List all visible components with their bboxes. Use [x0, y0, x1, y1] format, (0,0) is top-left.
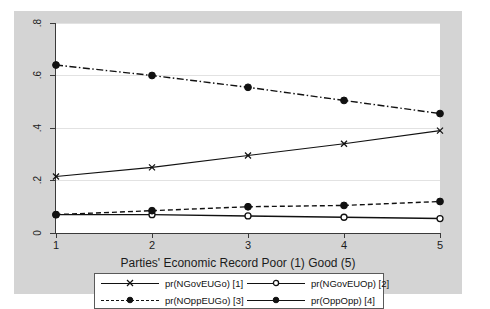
data-point — [341, 202, 348, 209]
data-point — [437, 216, 443, 222]
legend-sample-4 — [245, 294, 307, 308]
data-point — [437, 110, 444, 117]
x-axis-title: Parties' Economic Record Poor (1) Good (… — [14, 256, 462, 270]
data-point — [53, 211, 60, 218]
legend-sample-2 — [245, 277, 307, 291]
circle-filled-icon — [126, 295, 135, 304]
series-line-1 — [56, 131, 440, 177]
legend-row-2: pr(NOppEUGo) [3] pr(OppOpp) [4] — [95, 292, 385, 309]
legend-row-1: pr(NGovEUGo) [1] pr(NGovEUOp) [2] — [95, 275, 385, 292]
cross-icon — [126, 278, 135, 287]
data-point — [149, 72, 156, 79]
legend-entry-2[interactable]: pr(NGovEUOp) [2] — [245, 275, 389, 292]
circle-filled-icon — [272, 295, 281, 304]
chart-figure: .8 .6 .4 .2 0 1 2 3 4 5 Parties' Economi… — [14, 11, 462, 294]
legend-label-2: pr(NGovEUOp) [2] — [307, 278, 389, 289]
legend-sample-3 — [99, 294, 161, 308]
chart-legend: pr(NGovEUGo) [1] pr(NGovEUOp) [2] — [94, 273, 384, 309]
legend-entry-3[interactable]: pr(NOppEUGo) [3] — [99, 292, 244, 309]
data-point — [341, 214, 347, 220]
data-point — [245, 213, 251, 219]
data-point — [53, 62, 60, 69]
legend-label-3: pr(NOppEUGo) [3] — [161, 295, 244, 306]
legend-entry-1[interactable]: pr(NGovEUGo) [1] — [99, 275, 243, 292]
legend-label-1: pr(NGovEUGo) [1] — [161, 278, 243, 289]
circle-open-icon — [272, 278, 281, 287]
data-point — [341, 97, 348, 104]
data-point — [437, 198, 444, 205]
data-point — [245, 84, 252, 91]
series-layer — [14, 11, 462, 251]
data-point — [245, 203, 252, 210]
legend-sample-1 — [99, 277, 161, 291]
legend-entry-4[interactable]: pr(OppOpp) [4] — [245, 292, 375, 309]
legend-label-4: pr(OppOpp) [4] — [307, 295, 375, 306]
data-point — [149, 207, 156, 214]
